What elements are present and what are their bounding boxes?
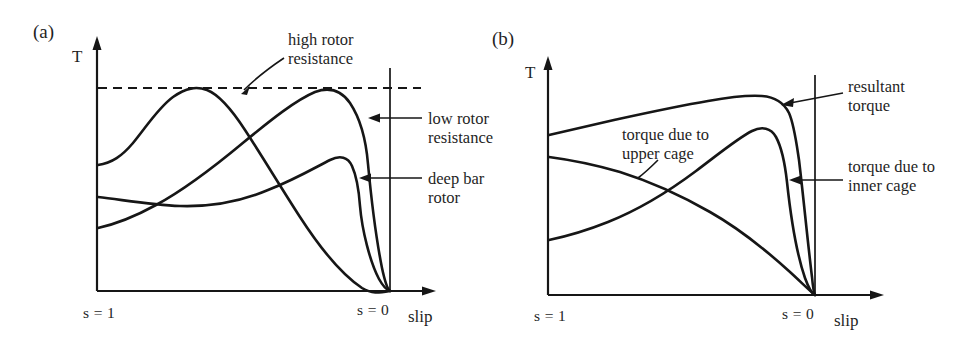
panel-a-high-rotor-resistance-leader: [244, 58, 284, 90]
panel-a-deep-bar-rotor-arrowhead: [359, 174, 371, 183]
panel-b-inner-cage-label-line2: inner cage: [848, 176, 916, 195]
panel-b-upper-cage-label-line2: upper cage: [622, 144, 694, 163]
panel-b-x-axis-arrowhead: [870, 291, 884, 300]
panel-b-label: (b): [492, 28, 514, 50]
panel-a-high-rotor-resistance-curve: [98, 88, 390, 293]
figure-root: (a) T high rotor resistance: [0, 0, 969, 343]
panel-b-resultant-torque-label-line2: torque: [848, 96, 890, 115]
panel-b-y-axis-arrowhead: [544, 56, 553, 70]
panel-a-low-rotor-resistance-curve: [98, 90, 390, 291]
panel-a-high-rotor-resistance-label-line2: resistance: [288, 49, 353, 68]
panel-b: (b) T torque due to upper cage: [492, 28, 935, 330]
panel-b-upper-cage-curve: [549, 157, 815, 295]
panel-b-x-axis-label: slip: [834, 311, 859, 330]
panel-a-x-axis-arrowhead: [422, 287, 436, 296]
panel-a-x-axis-label: slip: [408, 307, 433, 326]
panel-a-high-rotor-resistance-label-line1: high rotor: [288, 30, 354, 49]
panel-a-y-axis-arrowhead: [93, 36, 102, 50]
panel-b-upper-cage-label-line1: torque due to: [622, 125, 709, 144]
panel-b-x-tick-right: s = 0: [782, 305, 814, 322]
panel-a-low-rotor-resistance-label-line1: low rotor: [428, 109, 489, 128]
panel-b-y-axis-label: T: [525, 63, 536, 82]
panel-b-resultant-torque-leader: [790, 93, 843, 103]
panel-a-deep-bar-rotor-curve: [98, 157, 390, 291]
panel-a-x-tick-right: s = 0: [357, 301, 389, 318]
panel-a-label: (a): [33, 21, 54, 43]
panel-a: (a) T high rotor resistance: [33, 21, 493, 326]
panel-a-deep-bar-rotor-label-line2: rotor: [428, 188, 461, 207]
panel-b-inner-cage-arrowhead: [789, 176, 801, 185]
panel-a-y-axis-label: T: [72, 47, 83, 66]
panel-b-inner-cage-label-line1: torque due to: [848, 157, 935, 176]
panel-a-deep-bar-rotor-label-line1: deep bar: [428, 169, 485, 188]
torque-slip-figure: (a) T high rotor resistance: [0, 0, 969, 343]
panel-a-x-tick-left: s = 1: [83, 304, 115, 321]
panel-a-high-rotor-resistance-arrowhead: [241, 86, 250, 95]
panel-b-resultant-torque-label-line1: resultant: [848, 77, 905, 96]
panel-a-low-rotor-resistance-arrowhead: [368, 114, 380, 123]
panel-a-low-rotor-resistance-label-line2: resistance: [428, 128, 493, 147]
panel-b-x-tick-left: s = 1: [534, 307, 566, 324]
